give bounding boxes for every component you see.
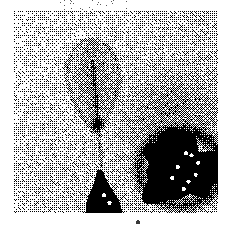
- scanned-page: [0, 0, 230, 230]
- halftone-image-plate: [14, 11, 218, 213]
- bottom-margin-speck: [136, 220, 140, 226]
- top-margin-dust-specks: [60, 0, 130, 10]
